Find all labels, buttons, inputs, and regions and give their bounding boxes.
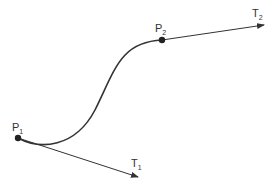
point-p1-dot [15, 135, 21, 141]
bezier-curve [18, 40, 162, 145]
tangent-t1-arrow [18, 138, 138, 177]
label-t2: T2 [252, 7, 263, 21]
hermite-curve-diagram: P1 P2 T2 T1 [0, 0, 274, 192]
label-p2: P2 [155, 22, 166, 36]
label-p1: P1 [12, 121, 23, 135]
tangent-t2-arrow [162, 25, 264, 40]
label-t1: T1 [131, 157, 142, 171]
point-p2-dot [159, 37, 165, 43]
